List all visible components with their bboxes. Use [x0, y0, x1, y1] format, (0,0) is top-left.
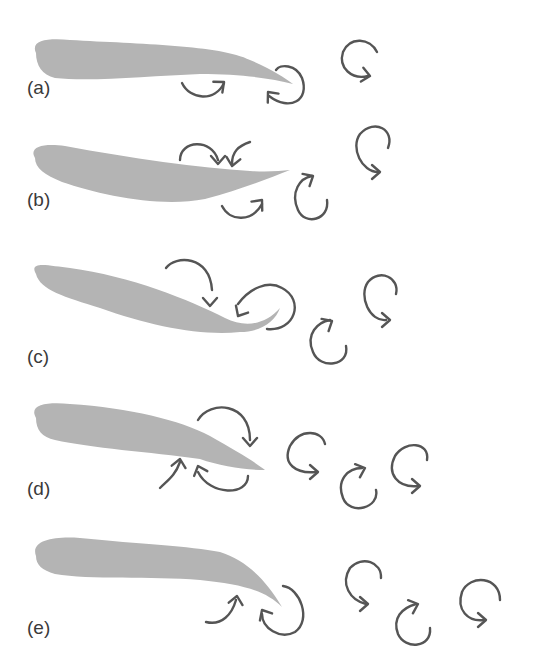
panel-label-a: (a) [27, 77, 50, 99]
vortex-arrow-icon [288, 433, 325, 479]
vortex-arrow-icon [341, 461, 376, 508]
hydrofoil-shape [34, 403, 265, 470]
panel-b [33, 127, 389, 220]
diagram-canvas [0, 0, 556, 666]
vortex-arrow-icon [460, 580, 500, 627]
panel-label-c: (c) [27, 346, 49, 368]
vortex-arrow-icon [356, 127, 389, 179]
panel-label-b: (b) [27, 189, 50, 211]
vortex-arrow-icon [225, 142, 250, 167]
panel-d [34, 403, 427, 508]
panel-c [34, 260, 396, 363]
panel-a [35, 39, 377, 103]
vortex-arrow-icon [364, 275, 396, 327]
vortex-arrow-icon [160, 458, 187, 488]
vortex-arrow-icon [222, 196, 267, 218]
vortex-arrow-icon [342, 41, 377, 83]
panel-label-e: (e) [27, 617, 50, 639]
vortex-arrow-icon [311, 315, 347, 364]
vortex-arrow-icon [180, 144, 225, 164]
vortex-arrow-icon [182, 77, 228, 97]
vortex-arrow-icon [206, 595, 244, 623]
hydrofoil-shape [35, 39, 293, 84]
vortex-arrow-icon [346, 561, 381, 611]
vortex-arrow-icon [295, 170, 327, 219]
vortex-arrow-icon [392, 445, 427, 493]
vortex-arrow-icon [396, 597, 430, 644]
hydrofoil-shape [33, 145, 290, 202]
panel-label-d: (d) [27, 478, 50, 500]
hydrofoil-shape [35, 538, 282, 607]
panel-e [35, 538, 500, 645]
